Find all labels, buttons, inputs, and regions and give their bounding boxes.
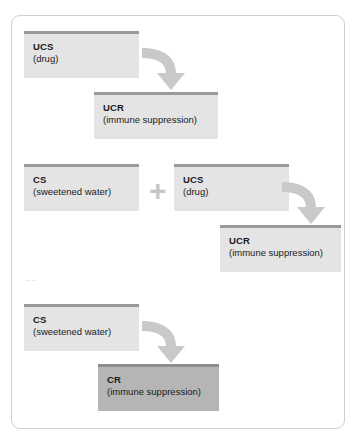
box-label-detail: (sweetened water) — [33, 326, 139, 338]
box-label-detail: (immune suppression) — [107, 386, 219, 398]
box-cr-immune-suppression: CR (immune suppression) — [98, 364, 219, 411]
curved-arrow-icon-stage3 — [138, 315, 200, 367]
box-label-abbr: CS — [33, 314, 139, 326]
box-cs-sweetened-water-conditioned: CS (sweetened water) — [24, 304, 139, 351]
box-label-abbr: CR — [107, 374, 219, 386]
conditioned-stage: CS (sweetened water) CR (immune suppress… — [12, 16, 344, 428]
page-artifact — [26, 280, 35, 285]
diagram-frame: UCS (drug) UCR (immune suppression) CS (… — [11, 15, 345, 429]
